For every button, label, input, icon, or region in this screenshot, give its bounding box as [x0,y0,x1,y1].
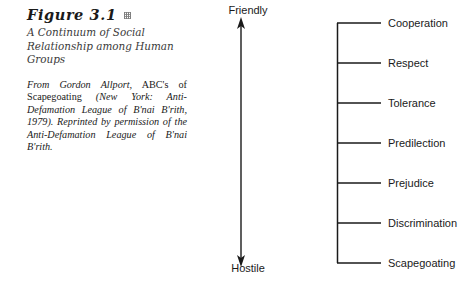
list-item: Cooperation [388,17,448,29]
double-headed-arrow-icon [206,0,290,284]
list-item: Prejudice [388,177,434,189]
list-item: Predilection [388,137,445,149]
decorative-square-icon [124,12,131,19]
list-item: Respect [388,57,428,69]
axis-label-hostile: Hostile [206,262,290,274]
source-note-lead: From Gordon Allport, [27,79,132,90]
figure-subtitle: A Continuum of Social Relationship among… [27,26,190,67]
source-note: From Gordon Allport, ABC's of Scapegoati… [27,79,187,155]
list-item: Tolerance [388,97,436,109]
list-item: Scapegoating [388,257,455,269]
caption-block: Figure 3.1 A Continuum of Social Relatio… [27,6,195,154]
continuum-axis: Friendly Hostile [206,0,290,284]
continuum-list: Cooperation Respect Tolerance Predilecti… [330,0,472,284]
figure-page: Figure 3.1 A Continuum of Social Relatio… [0,0,472,284]
figure-title-row: Figure 3.1 [27,6,195,23]
list-item: Discrimination [388,217,457,229]
figure-number: Figure 3.1 [27,6,117,23]
